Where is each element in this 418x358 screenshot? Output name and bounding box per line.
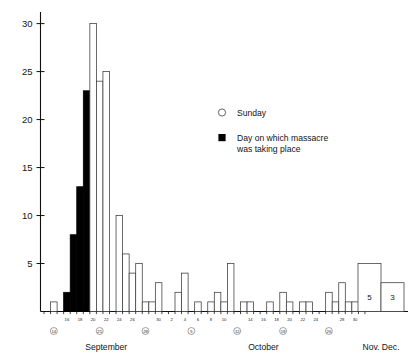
x-tick-group: 161820222426302468101416182022242830 [44, 312, 365, 322]
bar [64, 292, 71, 311]
bar [280, 292, 287, 311]
sunday-marker-group: 1421285121926 [50, 328, 332, 335]
y-tick-label: 10 [22, 210, 33, 221]
sunday-marker-label: 21 [97, 329, 102, 334]
x-tick-label: 22 [104, 317, 109, 322]
bar [241, 302, 248, 312]
bar [358, 264, 381, 312]
bar [136, 264, 143, 312]
x-tick-label: 20 [91, 317, 96, 322]
bar [155, 283, 162, 312]
bar-value-label: 3 [390, 293, 395, 302]
sunday-marker-label: 12 [235, 329, 240, 334]
x-tick-label: 20 [287, 317, 292, 322]
bar [182, 273, 189, 311]
y-tick-label: 5 [27, 258, 32, 269]
bar [306, 302, 313, 312]
bar [149, 302, 156, 312]
bar [51, 302, 58, 312]
sunday-marker-label: 28 [143, 329, 148, 334]
y-tick-label: 15 [22, 162, 33, 173]
bar [221, 302, 228, 312]
x-tick-label: 30 [156, 317, 161, 322]
bar [267, 302, 274, 312]
x-tick-label: 24 [117, 317, 122, 322]
bar [227, 264, 234, 312]
x-tick-label: 6 [197, 317, 200, 322]
bar [286, 302, 293, 312]
legend-sunday-label: Sunday [237, 108, 267, 118]
bar [247, 302, 254, 312]
y-tick-label: 20 [22, 114, 33, 125]
x-tick-label: 26 [130, 317, 135, 322]
sunday-marker-label: 26 [327, 329, 332, 334]
legend-massacre-icon [218, 134, 225, 141]
y-tick-label: 25 [22, 66, 33, 77]
month-label-september: September [85, 342, 127, 352]
x-tick-label: 30 [353, 317, 358, 322]
bar [90, 24, 97, 312]
bar [299, 302, 306, 312]
y-tick-group: 51015202530 [22, 18, 45, 269]
month-label-nov-dec: Nov. Dec. [362, 342, 399, 352]
bar [83, 91, 90, 312]
month-label-group: SeptemberOctoberNov. Dec. [85, 342, 399, 352]
x-tick-label: 18 [78, 317, 83, 322]
bars-group: 53 [51, 24, 404, 312]
bar [116, 216, 123, 312]
bar-chart: 51015202530 53 1618202224263024681014161… [0, 0, 418, 358]
sunday-marker-label: 14 [51, 329, 56, 334]
y-tick-label: 30 [22, 18, 33, 29]
bar [352, 302, 359, 312]
bar [339, 283, 346, 312]
x-tick-label: 8 [210, 317, 213, 322]
bar [214, 292, 221, 311]
sunday-marker-label: 5 [190, 329, 193, 334]
bar [195, 302, 202, 312]
bar [123, 254, 130, 312]
bar [103, 72, 110, 312]
x-tick-label: 2 [171, 317, 174, 322]
x-tick-label: 14 [248, 317, 253, 322]
bar-value-label: 5 [367, 293, 372, 302]
x-tick-label: 28 [340, 317, 345, 322]
sunday-marker-label: 19 [281, 329, 286, 334]
bar [208, 302, 215, 312]
x-tick-label: 10 [222, 317, 227, 322]
bar [345, 302, 352, 312]
legend-sunday-icon [218, 109, 225, 116]
chart-container: 51015202530 53 1618202224263024681014161… [0, 0, 418, 358]
bar [96, 81, 103, 311]
bar [142, 302, 149, 312]
bar [326, 292, 333, 311]
bar [129, 273, 136, 311]
bar [70, 235, 77, 312]
bar [175, 292, 182, 311]
chart-legend: Sunday Day on which massacre was taking … [218, 108, 328, 154]
x-tick-label: 16 [261, 317, 266, 322]
legend-massacre-label-line2: was taking place [236, 144, 301, 154]
month-label-october: October [248, 342, 279, 352]
x-tick-label: 18 [274, 317, 279, 322]
x-tick-label: 24 [313, 317, 318, 322]
x-tick-label: 4 [184, 317, 187, 322]
bar [332, 302, 339, 312]
x-tick-label: 16 [65, 317, 70, 322]
bar [77, 187, 84, 312]
x-tick-label: 22 [300, 317, 305, 322]
legend-massacre-label-line1: Day on which massacre [237, 133, 328, 143]
